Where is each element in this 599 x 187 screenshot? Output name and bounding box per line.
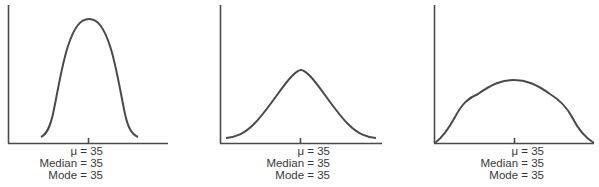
panel-2-chart xyxy=(220,5,382,144)
panel-1-curve xyxy=(41,19,138,137)
panel-3-curve xyxy=(435,80,594,143)
panel-1-mu-label: μ = 35 xyxy=(70,145,103,157)
panel-3-median-label: Median = 35 xyxy=(480,157,544,169)
panel-3-chart xyxy=(434,5,594,144)
panel-1-median-label: Median = 35 xyxy=(39,157,103,169)
panel-1-mode-label: Mode = 35 xyxy=(48,169,103,181)
panel-3-mode-label: Mode = 35 xyxy=(489,169,544,181)
panel-2-median-label: Median = 35 xyxy=(266,157,330,169)
panel-2-mu-label: μ = 35 xyxy=(297,145,330,157)
panel-2-mode-label: Mode = 35 xyxy=(275,169,330,181)
panel-3-mu-label: μ = 35 xyxy=(511,145,544,157)
panel-1-chart xyxy=(8,5,168,144)
panel-2-curve xyxy=(226,70,376,138)
